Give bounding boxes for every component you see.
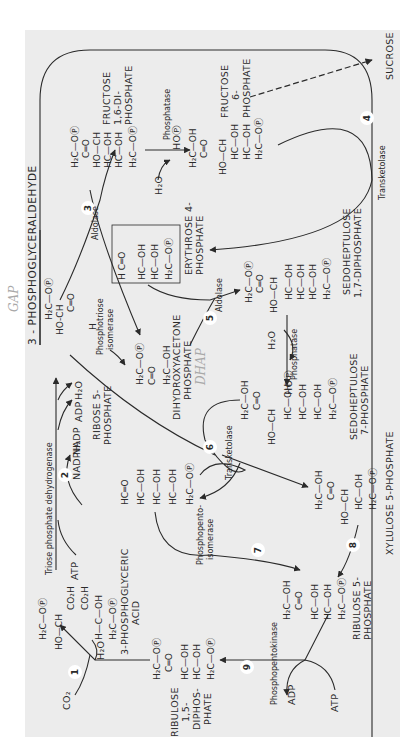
fdp-label-1: FRUCTOSE	[101, 72, 112, 125]
svg-text:C═O: C═O	[255, 274, 265, 293]
f6p-label-2: 6-	[230, 90, 241, 100]
f6p-label-3: PHOSPHATE	[241, 58, 252, 118]
svg-text:H₂C—OⓅ: H₂C—OⓅ	[152, 638, 162, 680]
svg-text:H₂C—OⓅ: H₂C—OⓅ	[38, 598, 48, 640]
svg-text:C═O: C═O	[147, 366, 157, 385]
svg-text:HO—CH: HO—CH	[218, 139, 228, 175]
svg-text:H₂C—OH: H₂C—OH	[240, 380, 250, 420]
svg-text:H₂C—OⓅ: H₂C—OⓅ	[328, 378, 338, 420]
dhap-label-2: PHOSPHATE	[182, 340, 193, 400]
h2o-1-label: H₂O	[95, 641, 106, 660]
r5p-label-1: RIBOSE 5-	[91, 390, 102, 440]
svg-text:H₂C—OⓅ: H₂C—OⓅ	[322, 258, 332, 300]
ppk-label: Phosphopentokinase	[270, 622, 279, 705]
step-4: 4	[362, 115, 372, 121]
svg-text:H₂C—OH: H₂C—OH	[282, 580, 292, 620]
s7p-label-2: 7-PHOSPHATE	[359, 365, 370, 435]
h2o-2-label: H₂O	[73, 381, 84, 400]
atp-9-label: ATP	[329, 694, 340, 712]
e4p-label-1: ERYTHROSE 4-	[183, 202, 194, 275]
sdp-label-2: 1,7-DIPHOSPHATE	[352, 208, 363, 298]
svg-text:HO—CH: HO—CH	[54, 614, 64, 650]
svg-text:H₂C—OH: H₂C—OH	[162, 345, 172, 385]
transketolase-4-label: Transketolase	[378, 145, 387, 201]
structure-ru5p: H₂C—OH C═O HC—OH HC—OH H₂C—OⓅ	[282, 578, 347, 620]
step-9: 9	[242, 664, 252, 670]
svg-text:H: H	[88, 323, 98, 330]
svg-text:HC—OH: HC—OH	[313, 384, 323, 420]
calvin-cycle-figure: 1 2 3 4 5 6 7 8 9 3 - PHOSPHOGLYCERALDEH…	[0, 0, 408, 737]
svg-text:HC—OH: HC—OH	[152, 469, 162, 505]
s7p-label-1: SEDOHEPTULOSE	[348, 353, 359, 440]
rudp-label-4: PHATE	[202, 693, 213, 725]
h2o-fdp-label: H₂O	[153, 176, 164, 195]
svg-text:H₂C—OⓅ: H₂C—OⓅ	[185, 463, 195, 505]
f6p-label-1: FRUCTOSE	[219, 65, 230, 118]
transketolase-6-label: Transketolase	[225, 425, 234, 481]
triose-dh-label: Triose phosphate dehydrogenase	[45, 442, 54, 576]
svg-text:HC—OH: HC—OH	[242, 124, 252, 160]
aldolase-3-label: Aldolase	[91, 206, 100, 240]
svg-text:H₂C—OⓅ: H₂C—OⓅ	[44, 278, 54, 320]
nadp-label: NADP	[71, 427, 82, 455]
svg-text:HC—OH: HC—OH	[103, 132, 113, 168]
step-6: 6	[205, 444, 215, 450]
step-7: 7	[253, 547, 263, 553]
svg-text:H₂C—OⓅ: H₂C—OⓅ	[254, 118, 264, 160]
svg-text:H₂C—OⓅ: H₂C—OⓅ	[368, 468, 378, 510]
rudp-label-2: 1,5-	[180, 702, 191, 722]
fdp-label-3: PHOSPHATE	[123, 65, 134, 125]
pga-label-2: ACID	[130, 601, 141, 625]
svg-text:H₂C—OⓅ: H₂C—OⓅ	[206, 638, 216, 680]
svg-text:H₂C—OⓅ: H₂C—OⓅ	[135, 343, 145, 385]
svg-text:HC—OH: HC—OH	[180, 644, 190, 680]
svg-text:C═O: C═O	[252, 391, 262, 410]
hop-fdp-label: HOⓅ	[171, 124, 182, 150]
svg-text:H₂C—OⓅ: H₂C—OⓅ	[70, 126, 80, 168]
sucrose-label: SUCROSE	[384, 32, 395, 80]
sdp-label-1: SEDOHEPTULOSE	[341, 208, 352, 295]
svg-text:H—C—OH: H—C—OH	[94, 595, 104, 640]
rudp-label-3: DIPHOS-	[191, 688, 202, 730]
gap-label: 3 - PHOSPHOGLYCERALDEHYDE	[26, 165, 38, 345]
gap-handwritten: GAP	[7, 285, 21, 312]
x5p-label: XYLULOSE 5-PHOSPHATE	[384, 431, 395, 555]
ppi-label-2: isomerase	[206, 519, 215, 560]
svg-text:HC—OH: HC—OH	[323, 584, 333, 620]
svg-text:HC—OH: HC—OH	[296, 264, 306, 300]
svg-text:C═O: C═O	[294, 591, 304, 610]
svg-text:HO—CH: HO—CH	[267, 409, 277, 445]
ppi-label-1: Phosphopento-	[196, 505, 205, 565]
rudp-label-1: RIBULOSE	[169, 687, 180, 737]
svg-text:HO—CH: HO—CH	[340, 489, 350, 525]
step-1: 1	[70, 669, 80, 675]
svg-text:HC—OH: HC—OH	[137, 244, 147, 280]
dhap-label-1: DIHYDROXYACETONE	[171, 314, 182, 420]
svg-text:HC—OH: HC—OH	[150, 244, 160, 280]
svg-text:HC—OH: HC—OH	[114, 132, 124, 168]
e4p-label-2: PHOSPHATE	[194, 215, 205, 275]
svg-text:HC—OH: HC—OH	[284, 264, 294, 300]
svg-text:HC—OH: HC—OH	[354, 474, 364, 510]
svg-text:HO-CH: HO-CH	[55, 305, 65, 335]
svg-text:H₂C—OⓅ: H₂C—OⓅ	[108, 598, 118, 640]
svg-text:HC—OH: HC—OH	[308, 264, 318, 300]
h2o-sdp-label: H₂O	[266, 331, 277, 350]
isomerase-label-2: isomerase	[106, 309, 115, 350]
step-8: 8	[348, 542, 358, 548]
dhap-handwritten: DHAP	[194, 347, 208, 386]
fdp-label-2: 1,6-DI-	[112, 91, 123, 125]
svg-text:HC—OH: HC—OH	[283, 384, 293, 420]
ru5p-label-1: RIBULOSE 5-	[351, 577, 362, 640]
adp-2-label: ADP	[73, 402, 84, 422]
svg-text:HC—OH: HC—OH	[310, 584, 320, 620]
svg-text:C═O: C═O	[81, 139, 91, 158]
svg-text:H C═O: H C═O	[117, 252, 127, 280]
svg-text:H₂C—OH: H₂C—OH	[188, 128, 198, 168]
svg-text:HC═O: HC═O	[120, 479, 130, 505]
svg-text:H₂C—OⓅ: H₂C—OⓅ	[164, 238, 174, 280]
structure-rudp: H₂C—OⓅ C═O HC—OH HC—OH H₂C—OⓅ	[152, 638, 216, 680]
svg-text:C═O: C═O	[164, 653, 174, 672]
svg-text:HO—CH: HO—CH	[92, 132, 102, 168]
r5p-label-2: PHOSPHATE	[102, 385, 113, 445]
